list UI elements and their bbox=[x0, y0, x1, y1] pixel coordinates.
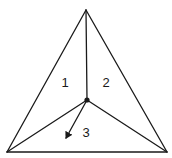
edge-right bbox=[86, 10, 167, 152]
region-label-1: 1 bbox=[61, 75, 68, 90]
triangle-diagram: 1 2 3 bbox=[0, 0, 172, 158]
region-label-3: 3 bbox=[82, 125, 89, 140]
edge-center-top bbox=[86, 10, 87, 100]
center-point bbox=[84, 97, 89, 102]
edge-left bbox=[7, 10, 86, 152]
region-label-2: 2 bbox=[102, 75, 109, 90]
edge-center-bottom-left bbox=[7, 100, 87, 152]
edge-center-bottom-right bbox=[87, 100, 167, 152]
